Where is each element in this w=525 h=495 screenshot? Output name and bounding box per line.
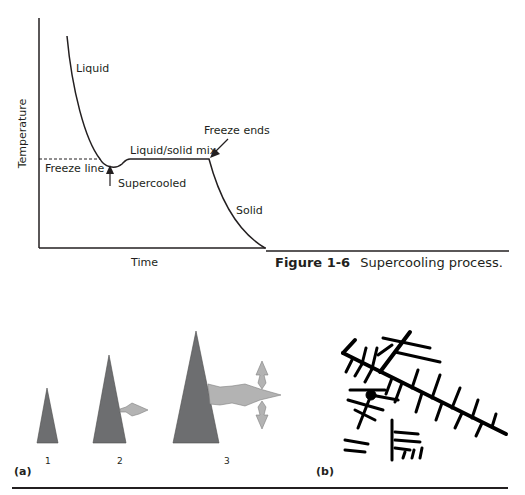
figure-caption-text: Supercooling process. [360, 255, 503, 270]
liquid-label: Liquid [76, 62, 109, 75]
stage-1-label: 1 [45, 456, 51, 466]
x-axis-label: Time [131, 256, 158, 269]
y-axis-label: Temperature [16, 99, 29, 169]
freeze-ends-label: Freeze ends [204, 124, 270, 137]
panel-b-label: (b) [316, 465, 334, 478]
stage-1-crystal [37, 388, 58, 443]
liquid-solid-mix-label: Liquid/solid mix [130, 144, 216, 157]
solid-label: Solid [236, 204, 263, 217]
stage-2-label: 2 [117, 456, 123, 466]
stage-3-label: 3 [224, 456, 230, 466]
stage-2-crystal [93, 355, 148, 443]
bottom-rule [12, 487, 508, 489]
figure-caption: Figure 1-6Supercooling process. [275, 255, 503, 270]
panel-a-label: (a) [14, 465, 31, 478]
freeze-line-label: Freeze line [45, 162, 104, 175]
supercooled-label: Supercooled [118, 177, 186, 190]
figure-number: Figure 1-6 [275, 255, 350, 270]
dendrite-image [343, 332, 506, 460]
stage-3-crystal [173, 331, 281, 443]
